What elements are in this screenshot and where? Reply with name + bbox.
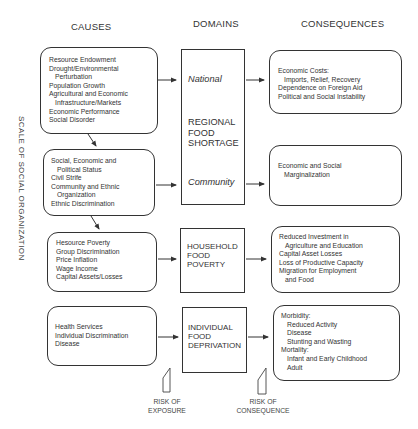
cause-item: Social, Economic and — [51, 157, 119, 166]
consequence-item: Stunting and Wasting — [281, 338, 367, 347]
risk-of-consequence-marker — [258, 368, 266, 394]
consequence-item: Agriculture and Education — [279, 242, 363, 251]
cause-item: Agricultural and Economic — [49, 90, 128, 99]
consequence-item: Mortality: — [281, 346, 367, 355]
cause-box-individual: Health Services Individual Discriminatio… — [47, 306, 157, 366]
domain-title-household: HOUSEHOLD FOOD POVERTY — [187, 242, 238, 269]
header-causes: CAUSES — [71, 21, 111, 32]
cause-item: Community and Ethnic — [51, 183, 119, 192]
consequence-item: Morbidity: — [281, 312, 367, 321]
domain-title-line: POVERTY — [187, 260, 238, 269]
cause-item: Group Discrimination — [56, 248, 123, 257]
consequence-list-individual: Morbidity: Reduced Activity Disease Stun… — [281, 312, 367, 372]
consequence-item: Migration for Employment — [279, 267, 363, 276]
arrow-cause1-to-cause2 — [88, 134, 96, 146]
consequence-box-community: Economic and Social Marginalization — [269, 145, 402, 206]
cause-item: Drought/Environmental — [49, 65, 128, 74]
domain-sub-national: National — [188, 74, 222, 84]
cause-item: Social Disorder — [49, 116, 128, 125]
cause-box-regional: Resource Endowment Drought/Environmental… — [40, 47, 158, 134]
cause-list-household: Hesource Poverty Group Discrimination Pr… — [56, 239, 123, 282]
consequence-item: Capital Asset Losses — [279, 250, 363, 259]
cause-item: Organization — [51, 191, 119, 200]
cause-list-community: Social, Economic and Political Status Ci… — [51, 157, 119, 209]
risk-of-consequence-label: RISK OF CONSEQUENCE — [236, 398, 290, 415]
cause-item: Disease — [55, 340, 128, 349]
consequence-box-national: Economic Costs: Imports, Relief, Recover… — [269, 50, 402, 114]
consequence-item: Adult — [281, 364, 367, 373]
domain-title-line: REGIONAL — [188, 117, 239, 128]
cause-list-regional: Resource Endowment Drought/Environmental… — [49, 56, 128, 125]
cause-box-household: Hesource Poverty Group Discrimination Pr… — [47, 232, 157, 292]
cause-item: Wage Income — [56, 265, 123, 274]
consequence-list-household: Reduced Investment in Agriculture and Ed… — [279, 233, 363, 285]
cause-item: Hesource Poverty — [56, 239, 123, 248]
cause-item: Capital Assets/Losses — [56, 273, 123, 282]
domain-title-line: DEPRIVATION — [188, 341, 241, 350]
risk-label-line: RISK OF — [236, 398, 290, 407]
cause-item: Infrastructure/Markets — [49, 99, 128, 108]
domain-box-household-food-poverty: HOUSEHOLD FOOD POVERTY — [180, 228, 245, 293]
consequence-item: Political and Social Instability — [278, 93, 365, 102]
consequence-item: Infant and Early Childhood — [281, 355, 367, 364]
domain-box-regional-food-shortage: National REGIONAL FOOD SHORTAGE Communit… — [181, 49, 245, 205]
domain-title-line: FOOD — [188, 128, 239, 139]
cause-item: Perturbation — [49, 73, 128, 82]
domain-title-line: SHORTAGE — [188, 138, 239, 149]
cause-item: Ethnic Discrimination — [51, 200, 119, 209]
header-consequences: CONSEQUENCES — [301, 18, 384, 29]
risk-label-line: RISK OF — [147, 398, 187, 407]
cause-item: Price Inflation — [56, 256, 123, 265]
cause-item: Individual Discrimination — [55, 332, 128, 341]
cause-item: Economic Performance — [49, 108, 128, 117]
domain-box-individual-food-deprivation: INDIVIDUAL FOOD DEPRIVATION — [182, 307, 247, 373]
domain-title-line: FOOD — [187, 251, 238, 260]
cause-box-community: Social, Economic and Political Status Ci… — [43, 149, 155, 216]
risk-label-line: CONSEQUENCE — [236, 407, 290, 416]
domain-title-individual: INDIVIDUAL FOOD DEPRIVATION — [188, 323, 241, 350]
cause-item: Resource Endowment — [49, 56, 128, 65]
consequence-item: Economic and Social — [278, 162, 341, 171]
domain-title-line: FOOD — [188, 332, 241, 341]
consequence-item: Economic Costs: — [278, 67, 365, 76]
consequence-item: Imports, Relief, Recovery — [278, 76, 365, 85]
cause-item: Population Growth — [49, 82, 128, 91]
consequence-item: Reduced Investment in — [279, 233, 363, 242]
consequence-item: Dependence on Foreign Aid — [278, 84, 365, 93]
consequence-item: Reduced Activity — [281, 321, 367, 330]
arrow-cause2-to-cause3 — [91, 216, 99, 229]
consequence-item: and Food — [279, 276, 363, 285]
domain-sub-community: Community — [188, 177, 234, 187]
cause-list-individual: Health Services Individual Discriminatio… — [55, 323, 128, 349]
consequence-box-household: Reduced Investment in Agriculture and Ed… — [271, 226, 400, 293]
risk-of-exposure-label: RISK OF EXPOSURE — [147, 398, 187, 415]
consequence-box-individual: Morbidity: Reduced Activity Disease Stun… — [273, 305, 400, 381]
consequence-list-community: Economic and Social Marginalization — [278, 162, 341, 179]
header-domains: DOMAINS — [193, 18, 239, 29]
cause-item: Political Status — [51, 166, 119, 175]
domain-title-regional: REGIONAL FOOD SHORTAGE — [188, 117, 239, 149]
domain-title-line: HOUSEHOLD — [187, 242, 238, 251]
consequence-list-national: Economic Costs: Imports, Relief, Recover… — [278, 67, 365, 101]
risk-of-exposure-marker — [163, 368, 170, 392]
domain-title-line: INDIVIDUAL — [188, 323, 241, 332]
consequence-item: Disease — [281, 329, 367, 338]
cause-item: Health Services — [55, 323, 128, 332]
risk-label-line: EXPOSURE — [147, 407, 187, 416]
consequence-item: Marginalization — [278, 171, 341, 180]
scale-of-social-organization-label: SCALE OF SOCIAL ORGANIZATION — [17, 116, 26, 261]
cause-item: Civil Strife — [51, 174, 119, 183]
consequence-item: Loss of Productive Capacity — [279, 259, 363, 268]
